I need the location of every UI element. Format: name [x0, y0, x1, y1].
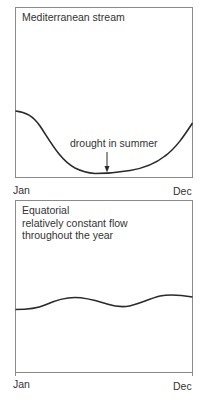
equatorial-chart-panel: Equatorial relatively constant flow thro… [15, 200, 193, 373]
x-axis-end-label: Dec [173, 185, 192, 197]
x-axis-start-label: Jan [13, 378, 30, 390]
title-line: relatively constant flow [22, 217, 128, 230]
x-axis-end-label: Dec [173, 380, 192, 392]
title-line: Equatorial [22, 204, 128, 217]
mediterranean-chart-panel: Mediterranean stream [15, 7, 193, 178]
title-line: throughout the year [22, 229, 128, 242]
x-axis-start-label: Jan [13, 184, 30, 196]
drought-annotation: drought in summer [70, 137, 158, 149]
title-line: Mediterranean stream [22, 11, 125, 24]
mediterranean-chart-title: Mediterranean stream [22, 11, 125, 24]
equatorial-chart-title: Equatorial relatively constant flow thro… [22, 204, 128, 242]
